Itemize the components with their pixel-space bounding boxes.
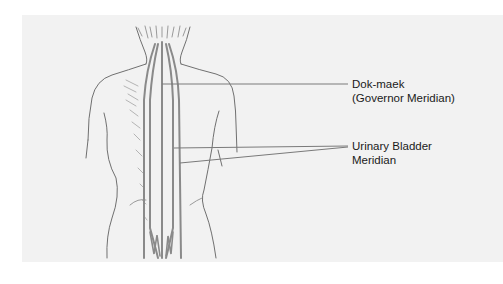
leader-lines xyxy=(162,84,348,163)
bladder-leader-lower xyxy=(180,147,348,163)
bladder-label-line2: Meridian xyxy=(352,153,432,167)
bladder-inner-right xyxy=(166,44,173,258)
governor-label-line1: Dok-maek xyxy=(352,77,455,91)
governor-label-line2: (Governor Meridian) xyxy=(352,91,455,105)
urinary-bladder-meridian-label: Urinary Bladder Meridian xyxy=(352,139,432,167)
bladder-inner-left xyxy=(150,44,158,258)
governor-meridian-label: Dok-maek (Governor Meridian) xyxy=(352,77,455,105)
bladder-label-line1: Urinary Bladder xyxy=(352,139,432,153)
bladder-leader-upper xyxy=(174,146,348,148)
meridian-lines xyxy=(144,42,181,258)
